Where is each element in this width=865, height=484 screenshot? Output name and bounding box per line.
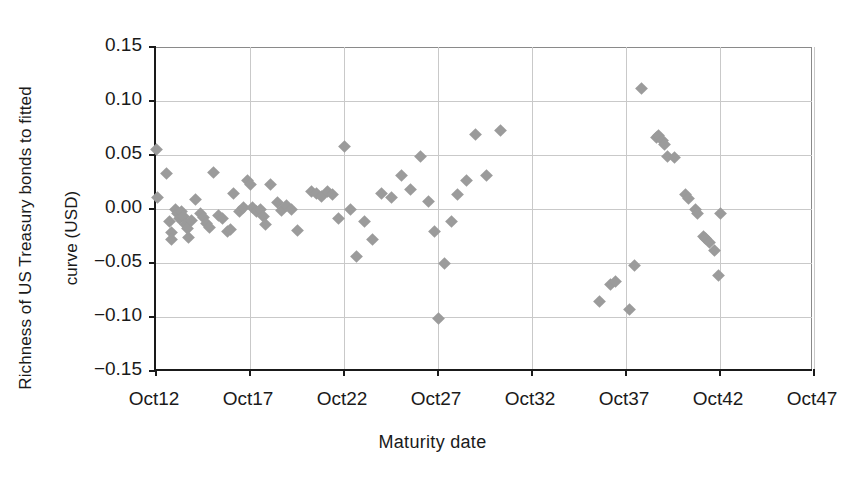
scatter-point — [227, 188, 240, 201]
gridline-vertical — [814, 47, 815, 369]
gridline-vertical — [626, 47, 627, 369]
x-tick-mark — [249, 369, 251, 376]
scatter-point — [414, 150, 427, 163]
plot-area — [154, 47, 812, 371]
gridline-vertical — [532, 47, 533, 369]
y-tick-mark — [149, 262, 156, 264]
scatter-point — [366, 233, 379, 246]
y-tick-label: 0.05 — [70, 142, 142, 164]
scatter-point — [469, 128, 482, 141]
y-axis-title-line1: Richness of US Treasury bonds to fitted — [14, 86, 37, 389]
scatter-point — [339, 140, 352, 153]
y-tick-label: 0.10 — [70, 88, 142, 110]
scatter-point — [264, 178, 277, 191]
x-tick-mark — [155, 369, 157, 376]
x-tick-mark — [437, 369, 439, 376]
gridline-horizontal — [156, 101, 812, 102]
x-axis-tick-labels: Oct12Oct17Oct22Oct27Oct32Oct37Oct42Oct47 — [0, 388, 865, 414]
y-tick-mark — [149, 46, 156, 48]
scatter-point — [422, 195, 435, 208]
scatter-point — [350, 250, 363, 263]
scatter-point — [628, 259, 641, 272]
y-tick-label: 0.15 — [70, 34, 142, 56]
gridline-horizontal — [156, 155, 812, 156]
scatter-point — [395, 169, 408, 182]
y-axis-title-line2: curve (USD) — [60, 86, 83, 389]
scatter-point — [404, 183, 417, 196]
x-axis-title: Maturity date — [0, 432, 865, 453]
plot-frame-top — [156, 47, 812, 48]
x-tick-label: Oct47 — [752, 388, 865, 410]
scatter-point — [160, 167, 173, 180]
x-tick-mark — [625, 369, 627, 376]
scatter-point — [358, 216, 371, 229]
scatter-point — [445, 216, 458, 229]
scatter-point — [433, 312, 446, 325]
gridline-horizontal — [156, 263, 812, 264]
scatter-point — [481, 169, 494, 182]
y-tick-label: −0.05 — [70, 250, 142, 272]
scatter-point — [438, 257, 451, 270]
scatter-point — [635, 82, 648, 95]
scatter-point — [593, 296, 606, 309]
scatter-point — [292, 224, 305, 237]
y-tick-mark — [149, 208, 156, 210]
scatter-chart-figure: Richness of US Treasury bonds to fitted … — [0, 0, 865, 484]
scatter-point — [494, 124, 507, 137]
x-tick-mark — [813, 369, 815, 376]
scatter-point — [189, 193, 202, 206]
x-tick-mark — [343, 369, 345, 376]
y-tick-mark — [149, 100, 156, 102]
scatter-point — [207, 166, 220, 179]
x-tick-mark — [719, 369, 721, 376]
y-tick-label: −0.10 — [70, 304, 142, 326]
scatter-point — [326, 189, 339, 202]
scatter-point — [152, 191, 165, 204]
scatter-point — [451, 189, 464, 202]
y-tick-label: 0.00 — [70, 196, 142, 218]
gridline-horizontal — [156, 317, 812, 318]
y-tick-mark — [149, 316, 156, 318]
scatter-point — [344, 203, 357, 216]
scatter-point — [712, 270, 725, 283]
scatter-point — [460, 175, 473, 188]
scatter-point — [332, 212, 345, 225]
y-tick-label: −0.15 — [70, 358, 142, 380]
x-tick-mark — [531, 369, 533, 376]
plot-frame-right — [811, 47, 812, 369]
